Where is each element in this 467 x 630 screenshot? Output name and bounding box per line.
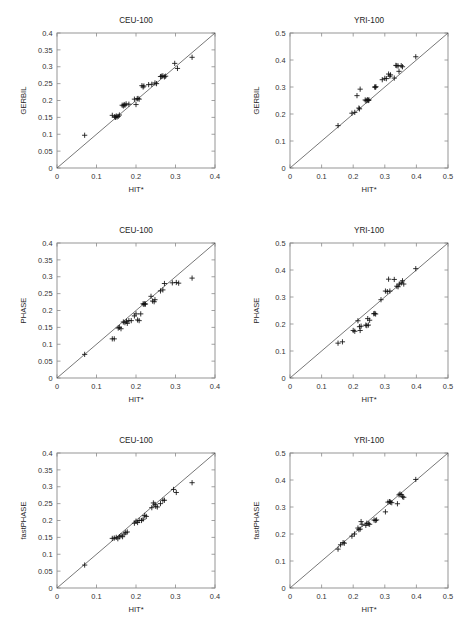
data-point-marker [359, 519, 364, 524]
y-tick-label: 0.1 [42, 130, 52, 139]
y-tick-label: 0.15 [38, 533, 52, 542]
y-tick-label: 0.4 [275, 476, 285, 485]
scatter-panel-fastphase-ceu-100: CEU-10000.10.20.30.400.050.10.150.20.250… [0, 420, 233, 630]
y-tick-label: 0.3 [275, 293, 285, 302]
data-point-marker [373, 518, 378, 523]
y-tick-label: 0.5 [275, 449, 285, 458]
x-tick-label: 0.2 [131, 172, 141, 181]
identity-line [290, 453, 448, 588]
y-tick-label: 0 [48, 584, 52, 593]
y-tick-label: 0.1 [275, 347, 285, 356]
y-axis-label: PHASE [252, 298, 261, 324]
y-tick-label: 0.05 [38, 147, 52, 156]
y-tick-label: 0.25 [38, 79, 52, 88]
y-tick-label: 0 [48, 374, 52, 383]
x-tick-label: 0.2 [348, 592, 358, 601]
y-tick-label: 0.3 [275, 503, 285, 512]
data-point-marker [126, 102, 131, 107]
y-tick-label: 0.5 [275, 29, 285, 38]
data-point-marker [82, 133, 87, 138]
data-point-marker [335, 341, 340, 346]
data-point-marker [413, 266, 418, 271]
y-tick-label: 0.4 [275, 56, 285, 65]
y-tick-label: 0.3 [42, 482, 52, 491]
y-tick-label: 0.25 [38, 499, 52, 508]
x-tick-label: 0.4 [411, 382, 421, 391]
y-tick-label: 0.3 [42, 272, 52, 281]
y-tick-label: 0.2 [42, 96, 52, 105]
identity-line [57, 33, 215, 168]
x-tick-label: 0.2 [131, 382, 141, 391]
y-axis-label: GERBIL [252, 87, 261, 115]
x-axis-label: HIT* [361, 185, 376, 194]
x-tick-label: 0.4 [210, 172, 220, 181]
x-tick-label: 0.3 [170, 172, 180, 181]
data-point-marker [380, 77, 385, 82]
x-tick-label: 0 [55, 382, 59, 391]
panel-title: CEU-100 [119, 436, 153, 445]
x-tick-label: 0.3 [380, 382, 390, 391]
y-tick-label: 0.3 [42, 62, 52, 71]
data-point-marker [387, 288, 392, 293]
y-tick-label: 0.35 [38, 46, 52, 55]
data-point-marker [355, 318, 360, 323]
y-axis-label: GERBIL [19, 87, 28, 115]
data-point-marker [383, 509, 388, 514]
y-tick-label: 0.2 [275, 320, 285, 329]
data-point-marker [358, 87, 363, 92]
y-tick-label: 0.4 [42, 449, 52, 458]
data-point-marker [189, 276, 194, 281]
data-point-marker [386, 277, 391, 282]
data-point-marker [176, 281, 181, 286]
y-tick-label: 0 [281, 374, 285, 383]
y-axis-label: fastPHASE [252, 502, 261, 540]
y-tick-label: 0.1 [275, 557, 285, 566]
data-point-marker [189, 480, 194, 485]
scatter-panel-fastphase-yri-100: YRI-10000.10.20.30.40.500.10.20.30.40.5H… [233, 420, 466, 630]
y-tick-label: 0 [48, 164, 52, 173]
data-point-marker [374, 517, 379, 522]
y-tick-label: 0.5 [275, 239, 285, 248]
x-axis-label: HIT* [128, 605, 143, 614]
data-point-marker [395, 501, 400, 506]
x-tick-label: 0.3 [170, 382, 180, 391]
data-point-marker [372, 311, 377, 316]
figure-canvas: CEU-10000.10.20.30.400.050.10.150.20.250… [0, 0, 467, 630]
y-tick-label: 0.4 [42, 239, 52, 248]
x-tick-label: 0.3 [380, 592, 390, 601]
scatter-panel-gerbil-yri-100: YRI-10000.10.20.30.40.500.10.20.30.40.5H… [233, 0, 466, 210]
x-tick-label: 0 [55, 592, 59, 601]
data-point-marker [358, 328, 363, 333]
data-point-marker [172, 61, 177, 66]
x-axis-label: HIT* [128, 395, 143, 404]
y-tick-label: 0 [281, 164, 285, 173]
panel-title: YRI-100 [354, 436, 384, 445]
y-axis-label: PHASE [19, 298, 28, 324]
x-tick-label: 0.1 [316, 172, 326, 181]
x-axis-label: HIT* [361, 395, 376, 404]
x-tick-label: 0.5 [443, 592, 453, 601]
identity-line [290, 243, 448, 378]
y-tick-label: 0.1 [275, 137, 285, 146]
y-tick-label: 0.15 [38, 113, 52, 122]
data-point-marker [395, 284, 400, 289]
data-point-marker [335, 123, 340, 128]
data-point-marker [392, 75, 397, 80]
data-point-marker [162, 281, 167, 286]
data-point-marker [340, 339, 345, 344]
x-tick-label: 0.1 [316, 592, 326, 601]
y-tick-label: 0.15 [38, 323, 52, 332]
data-point-marker [174, 280, 179, 285]
x-tick-label: 0.4 [411, 592, 421, 601]
identity-line [57, 243, 215, 378]
panel-title: YRI-100 [354, 226, 384, 235]
data-point-marker [373, 84, 378, 89]
data-point-group [335, 266, 418, 346]
x-tick-label: 0 [288, 592, 292, 601]
x-tick-label: 0.5 [443, 172, 453, 181]
data-point-group [82, 480, 195, 568]
x-tick-label: 0.1 [91, 172, 101, 181]
y-tick-label: 0.2 [42, 306, 52, 315]
data-point-group [335, 54, 418, 128]
y-tick-label: 0.4 [275, 266, 285, 275]
